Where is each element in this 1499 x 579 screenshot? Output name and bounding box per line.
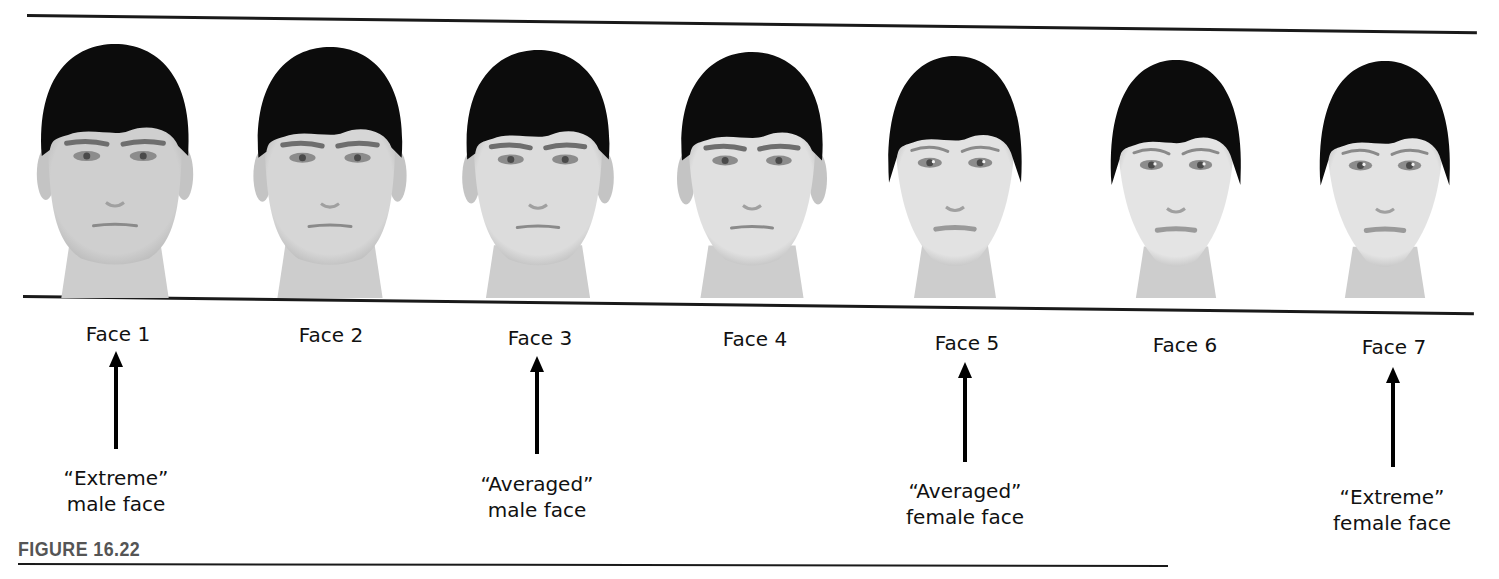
caption-extreme-female: “Extreme” female face [1292,484,1492,536]
faces-baseline-rule [23,295,1474,315]
caption-line2: female face [865,504,1065,530]
face-label-2: Face 2 [261,323,401,347]
caption-line2: female face [1292,510,1492,536]
figure-label: FIGURE 16.22 [18,537,140,561]
caption-averaged-male: “Averaged” male face [437,471,637,523]
face-label-5: Face 5 [897,331,1037,355]
face-image-2 [238,43,422,298]
face-label-4: Face 4 [685,327,825,351]
face-image-1 [21,40,209,298]
face-image-4 [662,48,842,298]
face-image-6 [1093,56,1259,298]
top-rule [27,14,1477,34]
caption-line1: “Extreme” [1292,484,1492,510]
caption-line1: “Averaged” [865,478,1065,504]
caption-line1: “Extreme” [16,465,216,491]
face-image-7 [1302,57,1468,298]
caption-averaged-female: “Averaged” female face [865,478,1065,530]
bottom-rule [18,563,1168,567]
caption-line2: male face [437,497,637,523]
caption-line1: “Averaged” [437,471,637,497]
caption-line2: male face [16,491,216,517]
face-image-3 [447,46,629,298]
face-label-6: Face 6 [1115,333,1255,357]
face-label-1: Face 1 [48,322,188,346]
face-image-5 [870,52,1040,298]
caption-extreme-male: “Extreme” male face [16,465,216,517]
face-label-3: Face 3 [470,326,610,350]
face-label-7: Face 7 [1324,335,1464,359]
